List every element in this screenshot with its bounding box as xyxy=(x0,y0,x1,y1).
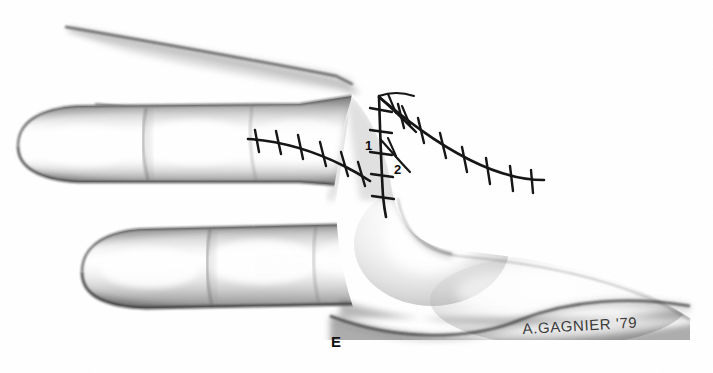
suture-line-vertical xyxy=(370,96,394,217)
panel-label: E xyxy=(331,333,342,350)
illustration-canvas: 1 2 E A.GAGNIER '79 xyxy=(0,0,713,373)
suture-apex-spur xyxy=(379,93,414,96)
flap-label-1: 1 xyxy=(365,138,372,153)
suture-line-web xyxy=(248,130,370,186)
flap-label-2: 2 xyxy=(394,162,401,177)
